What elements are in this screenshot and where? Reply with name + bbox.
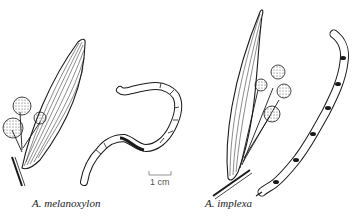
- melanoxylon-flower-head: [3, 118, 23, 138]
- scale-bar: [149, 171, 171, 175]
- implexa-branch: [213, 10, 291, 199]
- melanoxylon-branch: [3, 39, 85, 186]
- illustration: [0, 0, 353, 222]
- melanoxylon-flower-head: [34, 112, 46, 124]
- species-label-melanoxylon: A. melanoxylon: [32, 197, 100, 209]
- implexa-leaf: [227, 10, 263, 180]
- implexa-flower-head: [255, 79, 267, 91]
- scale-bar-label: 1 cm: [150, 177, 170, 187]
- melanoxylon-flower-head: [13, 97, 31, 115]
- implexa-flower-head: [271, 65, 285, 79]
- implexa-flower-head: [277, 84, 291, 98]
- melanoxylon-pod: [84, 83, 179, 182]
- species-label-implexa: A. implexa: [205, 197, 252, 209]
- implexa-flower-head: [264, 106, 280, 122]
- botanical-figure: A. melanoxylon A. implexa 1 cm: [0, 0, 353, 222]
